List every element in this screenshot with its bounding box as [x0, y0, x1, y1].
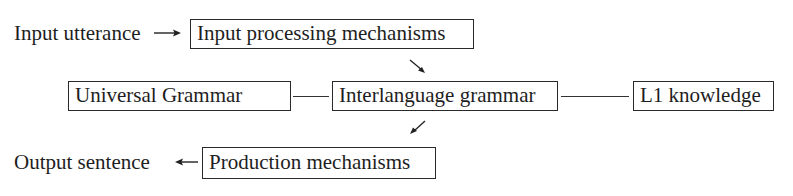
universal-grammar-box: Universal Grammar	[68, 81, 291, 111]
arrow-left-icon	[174, 155, 200, 169]
l1-knowledge-box: L1 knowledge	[633, 81, 774, 111]
output-sentence-label: Output sentence	[14, 148, 150, 176]
production-mechanisms-box: Production mechanisms	[202, 147, 436, 179]
interlanguage-grammar-box: Interlanguage grammar	[332, 81, 558, 111]
arrow-right-icon	[153, 26, 183, 40]
arrow-down-right-icon	[408, 58, 428, 76]
connector-line-il-l1	[561, 96, 629, 97]
input-utterance-label: Input utterance	[14, 19, 141, 47]
arrow-down-left-icon	[408, 119, 428, 137]
input-processing-box: Input processing mechanisms	[190, 19, 474, 49]
connector-line-ug-il	[293, 96, 329, 97]
